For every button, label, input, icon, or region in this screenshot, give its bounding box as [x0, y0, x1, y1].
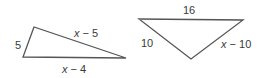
side-label-16: 16: [183, 4, 195, 16]
triangle-2: 16 10 x − 10: [139, 4, 251, 59]
side-label-x-minus-4: x − 4: [61, 63, 86, 75]
diagram-canvas: 5 x − 5 x − 4 16 10 x − 10: [0, 0, 260, 78]
side-label-5: 5: [15, 39, 21, 51]
side-label-10: 10: [141, 37, 153, 49]
side-label-x-minus-10: x − 10: [220, 38, 251, 50]
triangle-1: 5 x − 5 x − 4: [15, 27, 126, 75]
side-label-x-minus-5: x − 5: [73, 27, 98, 39]
